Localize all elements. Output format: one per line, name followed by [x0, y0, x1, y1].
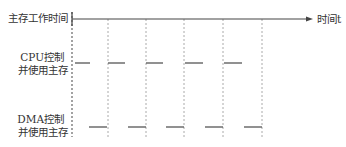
time-axis-arrow-icon	[306, 17, 313, 22]
timing-diagram	[0, 0, 346, 147]
